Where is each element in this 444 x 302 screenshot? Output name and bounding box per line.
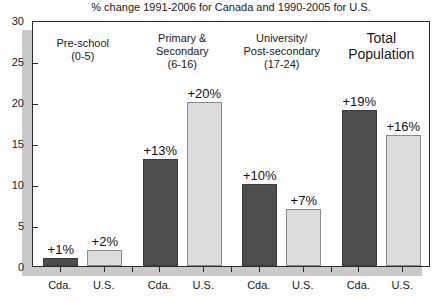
group-label-line: (6-16) (156, 58, 209, 71)
y-tick-label: 10 (12, 180, 24, 191)
plot-shadow-bottom (22, 267, 422, 276)
y-tick-mark (33, 186, 38, 187)
bar-canada-group1 (43, 258, 78, 266)
bar-value-label: +10% (243, 169, 277, 182)
group-label-2: Primary &Secondary(6-16) (156, 32, 209, 71)
y-tick-label: 15 (12, 139, 24, 150)
x-axis-label: Cda. (148, 279, 171, 291)
x-tick-mark (402, 267, 403, 272)
plot-frame: Pre-school(0-5)+1%+2%Primary &Secondary(… (32, 21, 430, 267)
x-tick-mark (104, 267, 105, 272)
x-tick-mark (259, 267, 260, 272)
x-axis-label: Cda. (347, 279, 370, 291)
y-tick-mark (33, 145, 38, 146)
bar-value-label: +13% (143, 144, 177, 157)
y-axis: 051015202530 (0, 0, 28, 302)
group-label-line: (0-5) (56, 50, 109, 63)
chart-title: % change 1991-2006 for Canada and 1990-2… (32, 1, 430, 14)
y-tick-label: 20 (12, 98, 24, 109)
bar-canada-group2 (143, 159, 178, 266)
y-tick-mark (33, 104, 38, 105)
group-label-line: Population (348, 46, 414, 62)
bar-value-label: +16% (386, 120, 420, 133)
group-label-line: Pre-school (56, 37, 109, 50)
bar-value-label: +20% (187, 87, 221, 100)
y-tick-label: 25 (12, 57, 24, 68)
bar-value-label: +2% (92, 235, 118, 248)
group-label-3: University/Post-secondary(17-24) (244, 32, 320, 71)
y-tick-label: 5 (18, 221, 24, 232)
bar-us-group4 (386, 135, 421, 266)
bar-us-group3 (286, 209, 321, 266)
group-label-line: Post-secondary (244, 45, 320, 58)
bar-us-group2 (187, 102, 222, 266)
group-label-line: Primary & (156, 32, 209, 45)
x-tick-mark (358, 267, 359, 272)
group-label-line: Secondary (156, 45, 209, 58)
y-tick-label: 0 (18, 262, 24, 273)
y-tick-label: 30 (12, 16, 24, 27)
bar-canada-group3 (242, 184, 277, 266)
group-label-line: University/ (244, 32, 320, 45)
group-label-line: (17-24) (244, 58, 320, 71)
group-label-1: Pre-school(0-5) (56, 37, 109, 63)
x-tick-mark (159, 267, 160, 272)
bar-value-label: +1% (48, 243, 74, 256)
x-group-divider-tick (331, 267, 332, 272)
group-label-4: TotalPopulation (348, 30, 414, 62)
y-tick-mark (33, 63, 38, 64)
x-axis-label: Cda. (247, 279, 270, 291)
bar-value-label: +7% (291, 194, 317, 207)
x-tick-mark (60, 267, 61, 272)
group-label-line: Total (348, 30, 414, 46)
x-tick-mark (203, 267, 204, 272)
x-axis-label: U.S. (93, 279, 114, 291)
x-tick-mark (303, 267, 304, 272)
bar-chart: % change 1991-2006 for Canada and 1990-2… (0, 0, 444, 302)
x-axis-label: U.S. (392, 279, 413, 291)
x-axis-label: Cda. (48, 279, 71, 291)
x-group-divider-tick (132, 267, 133, 272)
x-axis-label: U.S. (193, 279, 214, 291)
bar-value-label: +19% (342, 95, 376, 108)
x-group-divider-tick (231, 267, 232, 272)
x-axis-label: U.S. (292, 279, 313, 291)
bar-canada-group4 (342, 110, 377, 266)
plot-area: Pre-school(0-5)+1%+2%Primary &Secondary(… (33, 22, 429, 266)
y-tick-mark (33, 227, 38, 228)
bar-us-group1 (87, 250, 122, 266)
